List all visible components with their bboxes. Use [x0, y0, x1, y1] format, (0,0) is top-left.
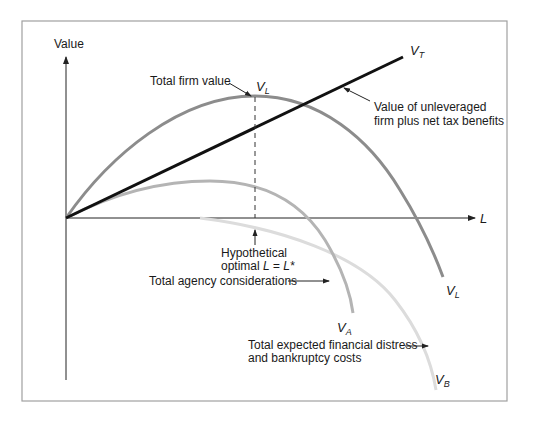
- va-label: VA: [337, 320, 352, 337]
- x-axis-label: L: [480, 211, 487, 226]
- unleveraged-arrow: [344, 88, 370, 101]
- vb-label: VB: [435, 372, 450, 389]
- unleveraged-label-line2: firm plus net tax benefits: [374, 114, 504, 128]
- y-axis-label: Value: [54, 37, 84, 51]
- vt-line: [66, 57, 403, 218]
- vt-label: VT: [410, 43, 426, 60]
- optimal-label-line1: Hypothetical: [221, 246, 287, 260]
- capital-structure-diagram: Value L Total firm value VL VT Value of …: [0, 0, 536, 421]
- distress-label-line2: and bankruptcy costs: [248, 351, 361, 365]
- vl-end-label: VL: [446, 283, 460, 300]
- total-firm-value-arrow: [229, 83, 251, 96]
- agency-label: Total agency considerations: [149, 274, 297, 288]
- vl-top-label: VL: [256, 79, 270, 96]
- total-firm-value-label: Total firm value: [150, 74, 231, 88]
- diagram-canvas: Value L Total firm value VL VT Value of …: [0, 0, 536, 421]
- unleveraged-label-line1: Value of unleveraged: [374, 100, 487, 114]
- va-curve: [66, 181, 353, 313]
- optimal-label-line2: optimal L = L*: [221, 259, 295, 273]
- distress-label-line1: Total expected financial distress: [248, 338, 417, 352]
